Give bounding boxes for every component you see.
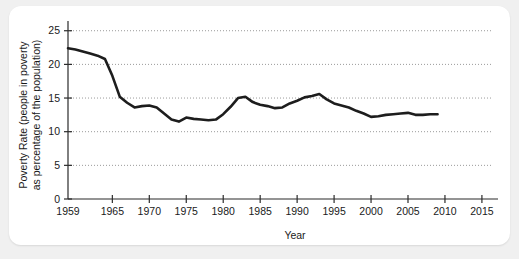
x-tick-group: 1959196519701975198019851990199520002005…: [56, 195, 493, 217]
series-group: [68, 48, 438, 121]
x-tick-label: 1970: [138, 205, 162, 217]
y-tick-label: 15: [48, 92, 60, 104]
y-tick-label: 25: [48, 24, 60, 36]
y-tick-label: 0: [54, 193, 60, 205]
x-tick-label: 2000: [359, 205, 383, 217]
x-tick-label: 1985: [248, 205, 272, 217]
poverty-rate-line-chart: 0510152025 19591965197019751980198519901…: [0, 0, 519, 259]
x-tick-label: 1975: [175, 205, 199, 217]
y-tick-label: 10: [48, 125, 60, 137]
x-tick-label: 2015: [470, 205, 494, 217]
y-axis-title-line1: Poverty Rate (people in poverty: [17, 41, 29, 189]
x-tick-label: 1959: [56, 205, 80, 217]
x-tick-label: 2005: [396, 205, 420, 217]
chart-svg: 0510152025 19591965197019751980198519901…: [0, 0, 519, 259]
x-tick-label: 1990: [285, 205, 309, 217]
x-tick-label: 1980: [212, 205, 236, 217]
x-tick-label: 2010: [433, 205, 457, 217]
x-tick-label: 1995: [322, 205, 346, 217]
gridlines-group: [70, 31, 493, 166]
axes-group: [68, 21, 498, 199]
y-tick-label: 5: [54, 159, 60, 171]
x-tick-label: 1965: [101, 205, 125, 217]
y-axis-title-line2: as percentage of the population): [30, 40, 42, 191]
poverty-rate-line: [68, 48, 438, 121]
y-tick-label: 20: [48, 58, 60, 70]
x-axis-title: Year: [284, 229, 306, 241]
